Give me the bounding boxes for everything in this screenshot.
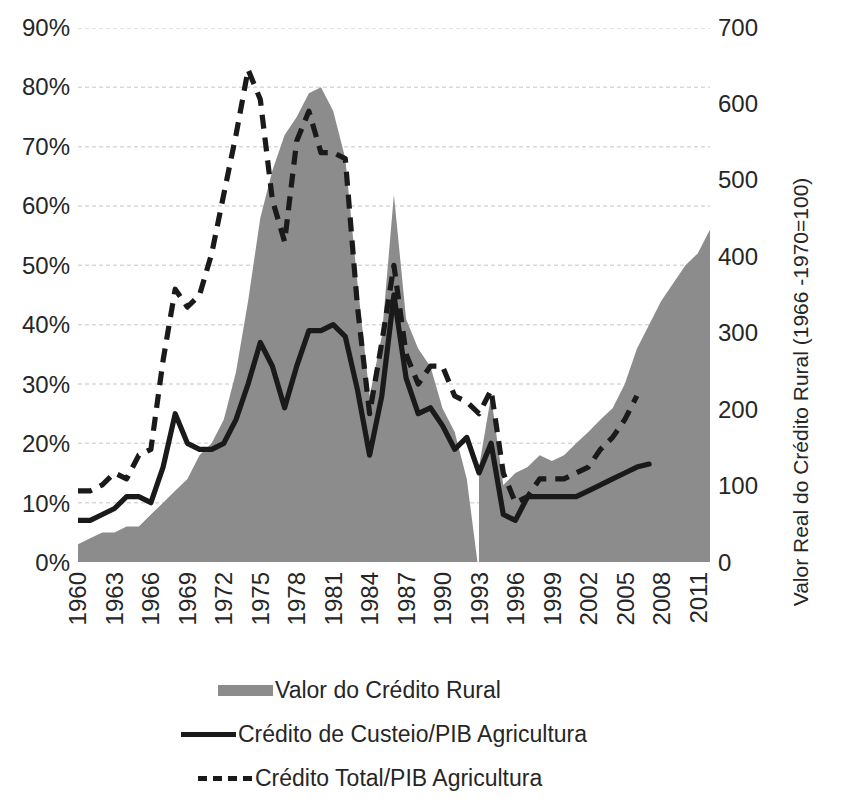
x-tick: 1960 [66, 572, 90, 662]
y-tick-left: 0% [2, 551, 70, 575]
legend-item-credito-custeio: Crédito de Custeio/PIB Agricultura [0, 712, 845, 756]
x-tick-label: 1963 [103, 572, 127, 625]
solid-line-swatch-icon [181, 723, 236, 745]
x-tick: 2005 [614, 572, 638, 662]
x-tick: 1963 [103, 572, 127, 662]
x-tick: 1987 [395, 572, 419, 662]
legend-label: Crédito de Custeio/PIB Agricultura [238, 723, 587, 746]
chart-legend: Valor do Crédito Rural Crédito de Custei… [0, 668, 845, 800]
dashed-line-swatch-icon [198, 767, 253, 789]
y-tick-right: 0 [718, 551, 788, 575]
x-tick: 1993 [468, 572, 492, 662]
legend-label: Valor do Crédito Rural [275, 679, 501, 702]
y-tick-left: 70% [2, 135, 70, 159]
legend-label: Crédito Total/PIB Agricultura [255, 767, 542, 790]
area-swatch-icon [218, 679, 273, 701]
x-tick-label: 1999 [541, 572, 565, 625]
x-tick: 1978 [285, 572, 309, 662]
x-tick: 1966 [139, 572, 163, 662]
x-tick-label: 1996 [504, 572, 528, 625]
chart-root: 90% 80% 70% 60% 50% 40% 30% 20% 10% 0% 7… [0, 0, 845, 805]
chart-canvas [78, 28, 710, 562]
x-tick: 2008 [650, 572, 674, 662]
x-tick: 1972 [212, 572, 236, 662]
y-tick-right: 700 [718, 16, 788, 40]
y-tick-right: 600 [718, 92, 788, 116]
y-tick-left: 10% [2, 492, 70, 516]
y-tick-left: 50% [2, 254, 70, 278]
x-tick: 1996 [504, 572, 528, 662]
x-tick-label: 1969 [176, 572, 200, 625]
y-tick-left: 20% [2, 432, 70, 456]
x-tick: 1975 [249, 572, 273, 662]
x-tick-label: 1975 [249, 572, 273, 625]
legend-item-credito-total: Crédito Total/PIB Agricultura [0, 756, 845, 800]
x-tick-label: 1972 [212, 572, 236, 625]
legend-item-valor-credito-rural: Valor do Crédito Rural [0, 668, 845, 712]
y-tick-right: 100 [718, 474, 788, 498]
y-tick-left: 80% [2, 75, 70, 99]
x-tick-label: 1993 [468, 572, 492, 625]
x-tick-label: 1984 [358, 572, 382, 625]
x-tick-label: 1987 [395, 572, 419, 625]
y-tick-left: 30% [2, 373, 70, 397]
x-tick-label: 1978 [285, 572, 309, 625]
x-tick: 1984 [358, 572, 382, 662]
y-tick-right: 500 [718, 168, 788, 192]
x-tick-label: 1990 [431, 572, 455, 625]
x-tick: 1990 [431, 572, 455, 662]
x-tick-label: 2005 [614, 572, 638, 625]
x-tick: 1969 [176, 572, 200, 662]
x-tick: 2002 [577, 572, 601, 662]
y-tick-left: 90% [2, 16, 70, 40]
y-tick-left: 60% [2, 194, 70, 218]
x-tick-label: 2008 [650, 572, 674, 625]
x-tick: 1981 [322, 572, 346, 662]
x-tick-label: 1966 [139, 572, 163, 625]
x-tick-label: 1960 [66, 572, 90, 625]
y-tick-right: 200 [718, 398, 788, 422]
plot-area [78, 28, 710, 562]
y-tick-left: 40% [2, 313, 70, 337]
y-axis-right-title: Valor Real do Crédito Rural (1966 -1970=… [790, 178, 811, 607]
x-tick-label: 2011 [687, 572, 711, 624]
x-tick: 2011 [687, 572, 711, 662]
x-tick-label: 2002 [577, 572, 601, 625]
y-tick-right: 300 [718, 321, 788, 345]
y-tick-right: 400 [718, 245, 788, 269]
x-tick: 1999 [541, 572, 565, 662]
x-tick-label: 1981 [322, 572, 346, 625]
